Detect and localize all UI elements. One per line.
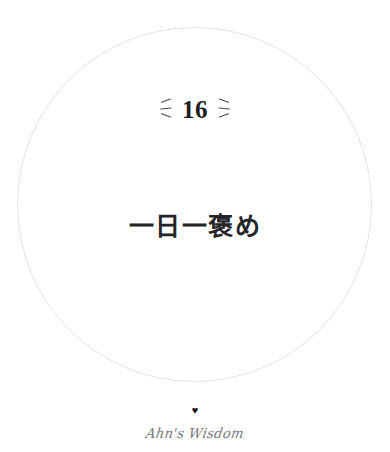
quote-phrase: 一日一褒め [0,211,390,242]
brand-signature: Ahn's Wisdom [0,427,390,442]
card-footer: ♥ Ahn's Wisdom [0,404,390,441]
decorative-circle [17,27,372,382]
quote-card: 16 一日一褒め ♥ Ahn's Wisdom [0,0,390,452]
day-number: 16 [182,97,208,122]
sparkle-lines-left-icon [158,96,173,122]
day-number-block: 16 [0,93,390,125]
heart-icon: ♥ [0,404,390,416]
sparkle-lines-right-icon [217,96,232,122]
